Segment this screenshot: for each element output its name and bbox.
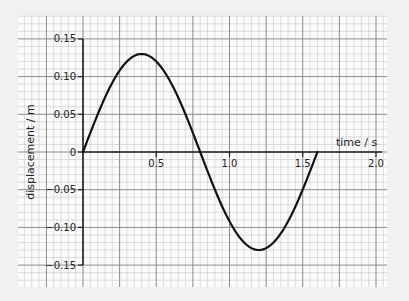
y-tick-label: 0.10 (54, 71, 76, 82)
x-tick-label: 0.5 (148, 158, 164, 169)
y-tick-label: −0.15 (45, 260, 76, 271)
y-tick-label: 0.15 (54, 33, 76, 44)
y-tick-label: 0 (70, 147, 76, 158)
x-tick-label: 1.5 (295, 158, 311, 169)
x-axis-title: time / s (336, 136, 378, 149)
displacement-time-chart: 0.150.100.050−0.05−0.10−0.150.51.01.52.0… (0, 0, 409, 301)
y-axis-title: displacement / m (24, 104, 37, 200)
x-tick-label: 1.0 (222, 158, 238, 169)
y-tick-label: −0.10 (45, 222, 76, 233)
y-tick-label: 0.05 (54, 109, 76, 120)
y-tick-label: −0.05 (45, 184, 76, 195)
x-tick-label: 2.0 (368, 158, 384, 169)
